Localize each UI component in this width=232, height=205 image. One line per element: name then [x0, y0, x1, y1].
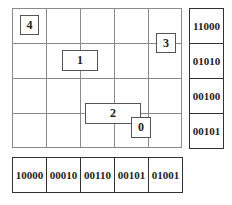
code-cell: 01010	[190, 43, 223, 78]
code-cell: 00101	[190, 113, 223, 148]
box-1: 1	[62, 50, 98, 71]
grid-line	[13, 78, 181, 79]
code-cell: 01001	[148, 158, 182, 192]
code-cell: 10000	[13, 158, 46, 192]
box-4: 4	[20, 15, 39, 35]
code-cell: 00010	[46, 158, 80, 192]
code-cell: 00100	[190, 78, 223, 113]
code-cell: 00110	[80, 158, 114, 192]
box-0: 0	[131, 117, 151, 138]
code-cell: 11000	[190, 9, 223, 43]
bottom-code-row: 10000 00010 00110 00101 01001	[12, 157, 183, 193]
code-cell: 00101	[114, 158, 148, 192]
right-code-column: 11000 01010 00100 00101	[189, 8, 224, 149]
box-3: 3	[156, 33, 176, 53]
